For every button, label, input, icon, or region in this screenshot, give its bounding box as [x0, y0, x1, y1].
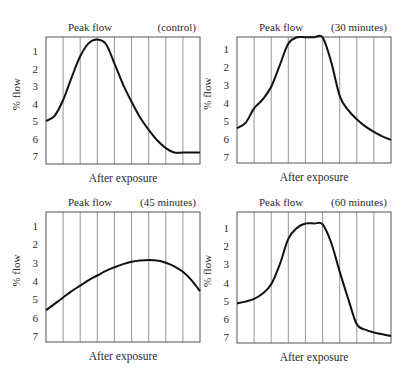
panel-30-minutes: Peak flow (30 minutes) 1234567 % flow Af… [201, 21, 391, 184]
panel-subtitle: (45 minutes) [140, 196, 196, 209]
flow-curve [237, 223, 391, 336]
y-tick-label: 2 [224, 61, 230, 73]
y-tick-labels: 1234567 [224, 43, 230, 163]
plot-frame [237, 37, 391, 163]
y-tick-label: 5 [224, 115, 230, 127]
y-tick-label: 2 [33, 63, 39, 75]
y-tick-label: 6 [224, 133, 230, 145]
y-tick-label: 6 [33, 312, 39, 324]
panel-subtitle: (30 minutes) [331, 21, 387, 34]
plot-frame [46, 212, 200, 342]
y-tick-label: 1 [224, 222, 230, 234]
y-tick-label: 6 [224, 313, 230, 325]
y-tick-labels: 1234567 [33, 220, 39, 342]
panel-control: Peak flow (control) 1234567 % flow After… [10, 21, 200, 185]
y-tick-label: 4 [33, 275, 39, 287]
flow-curve [237, 36, 391, 140]
y-tick-labels: 1234567 [224, 222, 230, 343]
panel-title: Peak flow [259, 196, 303, 208]
y-tick-label: 3 [33, 80, 39, 92]
y-tick-label: 2 [224, 240, 230, 252]
panel-title: Peak flow [68, 21, 112, 33]
y-tick-label: 3 [33, 257, 39, 269]
y-tick-label: 1 [33, 45, 39, 57]
x-axis-label: After exposure [89, 350, 158, 363]
y-axis-label: % flow [10, 254, 22, 286]
y-axis-label: % flow [10, 78, 22, 110]
y-axis-label: % flow [201, 78, 213, 110]
panel-title: Peak flow [68, 196, 112, 208]
vertical-gridlines [254, 37, 374, 163]
figure-grid: Peak flow (control) 1234567 % flow After… [0, 0, 406, 379]
y-tick-label: 4 [224, 97, 230, 109]
panel-subtitle: (control) [158, 21, 197, 34]
y-tick-label: 5 [224, 295, 230, 307]
vertical-gridlines [63, 212, 183, 342]
y-tick-label: 5 [33, 115, 39, 127]
panel-title: Peak flow [259, 21, 303, 33]
y-axis-label: % flow [201, 255, 213, 287]
flow-curve [46, 40, 200, 153]
y-tick-labels: 1234567 [33, 45, 39, 162]
y-tick-label: 3 [224, 79, 230, 91]
y-tick-label: 7 [33, 330, 39, 342]
x-axis-label: After exposure [280, 351, 349, 364]
x-axis-label: After exposure [280, 171, 349, 184]
x-axis-label: After exposure [89, 172, 158, 185]
plot-frame [237, 212, 391, 343]
panel-subtitle: (60 minutes) [331, 196, 387, 209]
y-tick-label: 4 [224, 277, 230, 289]
y-tick-label: 1 [33, 220, 39, 232]
panel-60-minutes: Peak flow (60 minutes) 1234567 % flow Af… [201, 196, 391, 364]
y-tick-label: 7 [224, 151, 230, 163]
panel-45-minutes: Peak flow (45 minutes) 1234567 % flow Af… [10, 196, 200, 363]
y-tick-label: 2 [33, 238, 39, 250]
plot-frame [46, 37, 200, 164]
y-tick-label: 7 [224, 331, 230, 343]
y-tick-label: 5 [33, 293, 39, 305]
flow-curve [46, 260, 200, 310]
y-tick-label: 1 [224, 43, 230, 55]
y-tick-label: 6 [33, 133, 39, 145]
y-tick-label: 4 [33, 98, 39, 110]
y-tick-label: 3 [224, 258, 230, 270]
y-tick-label: 7 [33, 150, 39, 162]
